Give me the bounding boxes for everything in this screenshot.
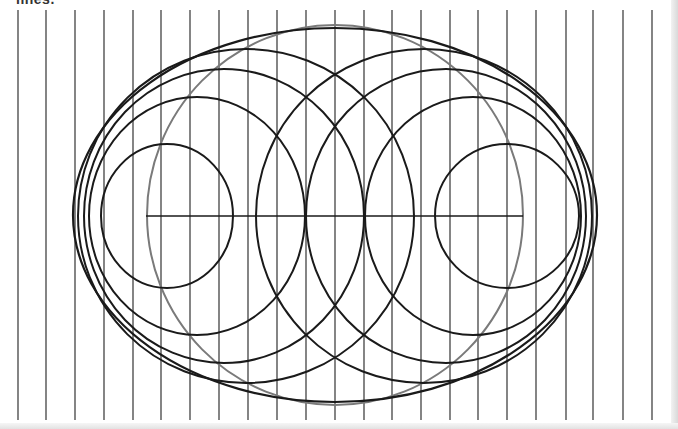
circle-lattice-diagram [0,0,678,429]
page-edge-shadow [671,0,678,429]
page-bottom-shadow [0,423,678,429]
